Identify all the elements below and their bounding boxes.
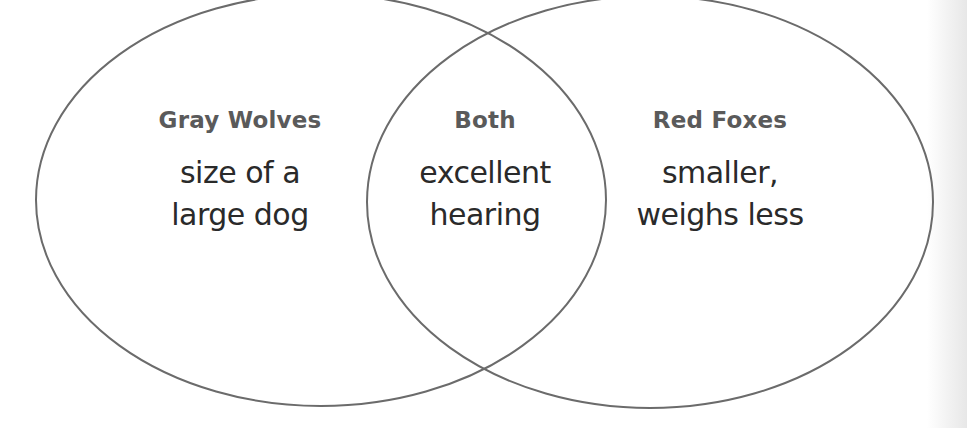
red-foxes-heading: Red Foxes <box>620 106 820 134</box>
red-foxes-text: smaller, weighs less <box>620 152 820 236</box>
both-line-2: hearing <box>395 194 575 236</box>
gray-wolves-heading: Gray Wolves <box>140 106 340 134</box>
gray-wolves-region: Gray Wolves size of a large dog <box>140 106 340 236</box>
both-line-1: excellent <box>395 152 575 194</box>
both-region: Both excellent hearing <box>395 106 575 236</box>
red-foxes-region: Red Foxes smaller, weighs less <box>620 106 820 236</box>
both-heading: Both <box>395 106 575 134</box>
red-foxes-line-2: weighs less <box>620 194 820 236</box>
red-foxes-line-1: smaller, <box>620 152 820 194</box>
gray-wolves-text: size of a large dog <box>140 152 340 236</box>
both-text: excellent hearing <box>395 152 575 236</box>
gray-wolves-line-2: large dog <box>140 194 340 236</box>
gray-wolves-line-1: size of a <box>140 152 340 194</box>
